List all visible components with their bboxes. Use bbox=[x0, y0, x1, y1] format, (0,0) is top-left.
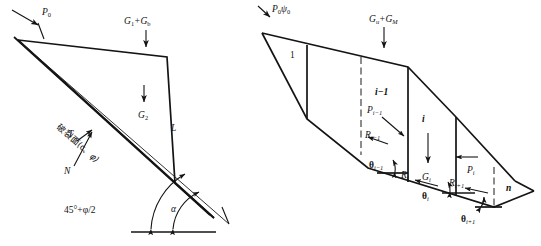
thrust-cur-label: Pi bbox=[466, 165, 475, 176]
theta-cur-label: θi bbox=[422, 191, 429, 202]
surcharge-arrow bbox=[258, 6, 270, 17]
slice-label-prev: i−1 bbox=[375, 87, 388, 97]
slip-length-label: L bbox=[170, 123, 176, 133]
slice-label-cur: i bbox=[422, 114, 425, 124]
surcharge-label: P0 bbox=[41, 7, 51, 18]
theta-next-label: θi+1 bbox=[461, 214, 475, 225]
sliding-mass-outline bbox=[262, 33, 534, 207]
angle-base-label: 45°+φ/2 bbox=[64, 205, 96, 215]
shear-force-label: T bbox=[68, 129, 74, 139]
weight-slice-label: Gi bbox=[422, 172, 431, 183]
slice-boundaries-dashed bbox=[361, 57, 494, 207]
weight-top-label: G1+Gb bbox=[124, 16, 151, 27]
slice-label-last: n bbox=[506, 183, 511, 193]
right-panel-diagram: P0ψ0 Gu+GM 1 i−1 i n Pi−1 Pi Ri−1 Ri bbox=[256, 0, 541, 246]
weight-top-label: Gu+GM bbox=[369, 14, 398, 25]
angle-alpha-arc bbox=[173, 192, 199, 229]
weight-mid-label: G2 bbox=[138, 110, 148, 121]
figure-root: P0 G1+Gb G2 破裂面(c、φ) T N L 45°+φ/2 α bbox=[0, 0, 541, 246]
theta-prev-label: θi−1 bbox=[369, 160, 383, 171]
theta-prev-arc bbox=[393, 160, 395, 172]
surcharge-arrow bbox=[12, 10, 38, 25]
thrust-prev-arrow bbox=[382, 117, 404, 136]
left-panel-diagram: P0 G1+Gb G2 破裂面(c、φ) T N L 45°+φ/2 α bbox=[0, 0, 262, 246]
wedge-outline bbox=[14, 37, 214, 218]
crest-tick-mark bbox=[38, 23, 44, 39]
slice-label-first: 1 bbox=[290, 50, 295, 60]
angle-alpha-label: α bbox=[171, 204, 177, 214]
thrust-prev-label: Pi−1 bbox=[366, 105, 382, 116]
surcharge-label: P0ψ0 bbox=[271, 4, 290, 15]
theta-next-arc bbox=[481, 197, 484, 207]
reaction-prev-label: Ri−1 bbox=[364, 130, 380, 141]
angle-base-arc bbox=[151, 174, 185, 229]
slip-surface-line bbox=[19, 41, 229, 224]
normal-force-label: N bbox=[63, 166, 71, 176]
